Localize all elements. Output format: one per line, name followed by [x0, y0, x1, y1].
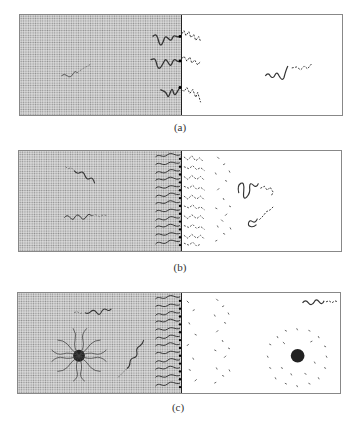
micelle-right: [267, 328, 327, 387]
chains-a: [20, 15, 342, 115]
micelle-left: [52, 328, 107, 381]
chains-b: [19, 151, 341, 251]
panel-b: [18, 150, 342, 252]
panel-c: [17, 292, 341, 394]
caption-a: (a): [160, 121, 200, 133]
caption-b: (b): [160, 261, 200, 273]
panel-a: [19, 14, 343, 116]
caption-c: (c): [158, 401, 198, 413]
chains-c: [18, 293, 340, 393]
